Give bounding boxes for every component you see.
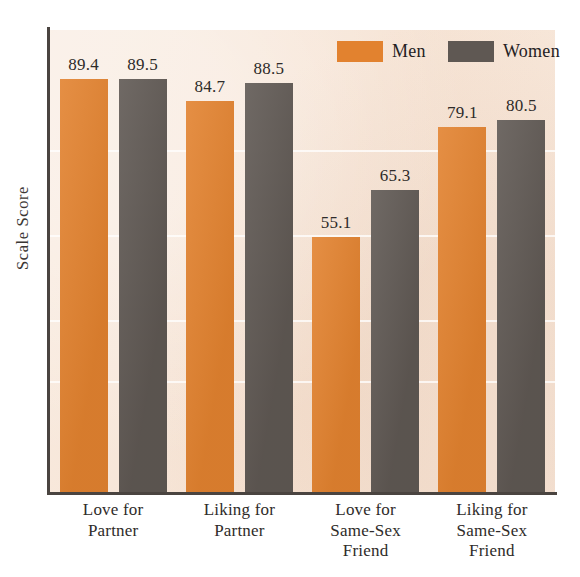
chart-legend: Men Women bbox=[337, 41, 560, 62]
value-label-women-2: 65.3 bbox=[364, 166, 426, 186]
value-label-men-1: 84.7 bbox=[179, 77, 241, 97]
category-label-3: Liking forSame-SexFriend bbox=[429, 500, 555, 562]
legend-label-men: Men bbox=[392, 41, 426, 62]
value-label-women-3: 80.5 bbox=[490, 96, 552, 116]
bar-chart-figure: Scale Score 89.489.584.788.555.165.379.1… bbox=[0, 0, 580, 577]
category-label-1: Liking forPartner bbox=[176, 500, 302, 541]
bar-men-0 bbox=[60, 79, 108, 492]
legend-label-women: Women bbox=[503, 41, 560, 62]
value-label-men-2: 55.1 bbox=[305, 213, 367, 233]
y-axis-line bbox=[47, 27, 50, 495]
bar-men-3 bbox=[438, 127, 486, 492]
men-color-swatch bbox=[337, 41, 383, 62]
women-color-swatch bbox=[448, 41, 494, 62]
bar-women-2 bbox=[371, 190, 419, 492]
legend-item-men[interactable]: Men bbox=[337, 41, 426, 62]
bar-women-1 bbox=[245, 83, 293, 492]
bar-men-1 bbox=[186, 101, 234, 492]
value-label-men-0: 89.4 bbox=[53, 55, 115, 75]
x-axis-line bbox=[47, 492, 557, 495]
bar-women-0 bbox=[119, 79, 167, 492]
category-label-0: Love forPartner bbox=[50, 500, 176, 541]
y-axis-title: Scale Score bbox=[13, 143, 33, 313]
category-label-2: Love forSame-SexFriend bbox=[303, 500, 429, 562]
bar-women-3 bbox=[497, 120, 545, 492]
value-label-women-1: 88.5 bbox=[238, 59, 300, 79]
value-label-men-3: 79.1 bbox=[431, 103, 493, 123]
legend-item-women[interactable]: Women bbox=[448, 41, 560, 62]
bar-men-2 bbox=[312, 237, 360, 492]
value-label-women-0: 89.5 bbox=[112, 55, 174, 75]
